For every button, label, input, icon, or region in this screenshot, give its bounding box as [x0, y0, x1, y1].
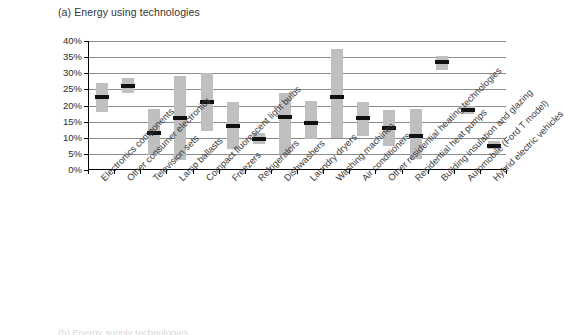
y-axis-tick-label: 0% — [48, 164, 82, 175]
page-title: (a) Energy using technologies — [58, 6, 200, 18]
x-axis-tick-mark — [114, 170, 115, 174]
x-axis-tick-mark — [245, 170, 246, 174]
median-marker — [330, 95, 344, 99]
x-axis-tick-mark — [140, 170, 141, 174]
median-marker — [435, 60, 449, 64]
y-axis-tick-label: 20% — [48, 100, 82, 111]
x-axis-tick-mark — [506, 170, 507, 174]
y-axis-tick-label: 10% — [48, 132, 82, 143]
gridline — [89, 73, 506, 74]
gridline — [89, 106, 506, 107]
bottom-caption-clipped: (b) Energy supply technologies — [58, 327, 188, 335]
x-axis-tick-mark — [428, 170, 429, 174]
x-axis-tick-mark — [219, 170, 220, 174]
median-marker — [226, 124, 240, 128]
x-axis-tick-mark — [454, 170, 455, 174]
y-axis-tick-label: 40% — [48, 35, 82, 46]
gridline — [89, 41, 506, 42]
range-bar — [331, 49, 343, 138]
median-marker — [278, 115, 292, 119]
x-axis-tick-mark — [88, 170, 89, 174]
x-axis-tick-mark — [375, 170, 376, 174]
x-axis-tick-mark — [166, 170, 167, 174]
x-axis-tick-mark — [402, 170, 403, 174]
x-axis-tick-mark — [193, 170, 194, 174]
x-axis-tick-mark — [297, 170, 298, 174]
median-marker — [121, 84, 135, 88]
range-bar — [305, 101, 317, 140]
y-axis-tick-label: 35% — [48, 51, 82, 62]
y-axis-tick-label: 5% — [48, 148, 82, 159]
y-axis-tick-label: 25% — [48, 83, 82, 94]
x-axis-tick-mark — [271, 170, 272, 174]
median-marker — [356, 116, 370, 120]
y-axis-tick-label: 30% — [48, 67, 82, 78]
x-axis-tick-mark — [480, 170, 481, 174]
y-axis-tick-label: 15% — [48, 116, 82, 127]
x-axis-tick-mark — [349, 170, 350, 174]
x-axis-tick-mark — [323, 170, 324, 174]
median-marker — [304, 121, 318, 125]
median-marker — [95, 95, 109, 99]
